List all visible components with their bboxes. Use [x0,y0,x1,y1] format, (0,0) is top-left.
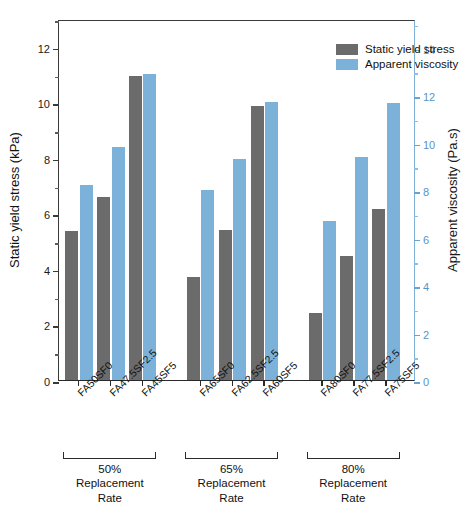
group-bracket-g3 [307,452,400,459]
y-left-minor-tick-13 [55,21,59,23]
y-left-minor-tick-1 [55,354,59,356]
group-caption-line2-g2: Replacement Rate [185,476,278,505]
y-left-tick-label-2: 2 [44,320,50,332]
y-right-tick-label-12: 12 [423,91,435,103]
group-caption-g3: 80%Replacement Rate [307,462,400,505]
bar-apparent-viscosity-FA60SF5 [265,102,278,380]
bar-static-yield-stress-FA47.5SF2.5 [97,197,110,380]
y-left-tick-label-0: 0 [44,376,50,388]
y-left-minor-tick-11 [55,77,59,79]
bar-apparent-viscosity-FA75SF5 [387,103,400,380]
group-bracket-g1 [63,452,156,459]
y-right-tick-8 [414,192,420,194]
legend-swatch-apparent-viscosity [336,59,358,70]
bar-apparent-viscosity-FA47.5SF2.5 [112,147,125,380]
y-axis-right-title: Apparent viscosity (Pa.s) [445,90,460,310]
y-left-minor-tick-3 [55,299,59,301]
legend-swatch-static-yield-stress [336,44,358,55]
group-percent-g2: 65% [185,462,278,476]
y-right-tick-12 [414,97,420,99]
y-right-tick-label-2: 2 [423,329,429,341]
bar-static-yield-stress-FA65SF0 [187,277,200,380]
bar-apparent-viscosity-FA80SF0 [323,221,336,380]
y-left-tick-6 [53,215,59,217]
y-right-tick-label-4: 4 [423,281,429,293]
y-left-tick-label-8: 8 [44,154,50,166]
y-left-tick-4 [53,271,59,273]
group-caption-line2-g1: Replacement Rate [63,476,156,505]
bar-static-yield-stress-FA62.5SF2.5 [219,230,232,380]
bar-static-yield-stress-FA50SF0 [65,231,78,380]
y-right-tick-2 [414,335,420,337]
bar-apparent-viscosity-FA45SF5 [143,74,156,380]
y-right-minor-tick-7 [414,216,418,218]
y-left-tick-label-6: 6 [44,209,50,221]
group-caption-g2: 65%Replacement Rate [185,462,278,505]
y-left-tick-12 [53,49,59,51]
y-right-minor-tick-3 [414,311,418,313]
chart-legend: Static yield stress Apparent viscosity [336,43,458,70]
bar-apparent-viscosity-FA62.5SF2.5 [233,159,246,380]
bar-chart-figure: Static yield stress (kPa) Apparent visco… [0,0,473,508]
y-left-minor-tick-5 [55,243,59,245]
y-left-tick-label-12: 12 [38,43,50,55]
bar-static-yield-stress-FA60SF5 [251,106,264,380]
legend-label-apparent-viscosity: Apparent viscosity [365,58,458,70]
bar-apparent-viscosity-FA65SF0 [201,190,214,380]
y-left-tick-label-10: 10 [38,98,50,110]
y-right-tick-label-8: 8 [423,186,429,198]
y-axis-left-title: Static yield stress (kPa) [7,90,22,310]
y-right-tick-label-0: 0 [423,376,429,388]
group-percent-g1: 50% [63,462,156,476]
y-left-tick-8 [53,160,59,162]
bar-static-yield-stress-FA75SF5 [372,209,385,380]
y-right-tick-label-6: 6 [423,234,429,246]
y-left-tick-2 [53,326,59,328]
bar-static-yield-stress-FA45SF5 [129,76,142,380]
y-left-minor-tick-7 [55,188,59,190]
y-right-tick-10 [414,145,420,147]
y-right-tick-6 [414,240,420,242]
group-caption-g1: 50%Replacement Rate [63,462,156,505]
legend-item-static-yield-stress: Static yield stress [336,43,458,55]
bar-apparent-viscosity-FA77.5SF2.5 [355,157,368,380]
legend-item-apparent-viscosity: Apparent viscosity [336,58,458,70]
y-right-minor-tick-15 [414,26,418,28]
bar-apparent-viscosity-FA50SF0 [80,185,93,380]
y-right-minor-tick-13 [414,73,418,75]
y-left-tick-label-4: 4 [44,265,50,277]
y-right-tick-4 [414,287,420,289]
y-right-minor-tick-5 [414,263,418,265]
y-left-minor-tick-9 [55,132,59,134]
y-right-tick-label-10: 10 [423,139,435,151]
plot-area: 024681012 02468101214 Static yield stres… [58,20,415,381]
group-bracket-g2 [185,452,278,459]
group-caption-line2-g3: Replacement Rate [307,476,400,505]
bar-static-yield-stress-FA80SF0 [309,313,322,380]
y-right-minor-tick-11 [414,121,418,123]
y-right-minor-tick-9 [414,168,418,170]
y-left-tick-10 [53,104,59,106]
group-percent-g3: 80% [307,462,400,476]
legend-label-static-yield-stress: Static yield stress [365,43,454,55]
